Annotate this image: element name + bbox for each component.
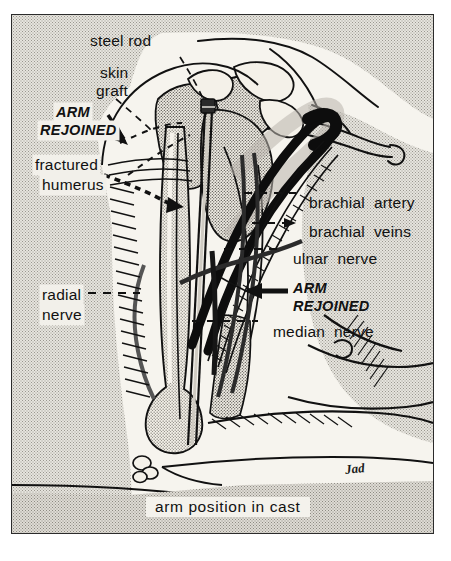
label-ulnar-nerve: ulnar nerve xyxy=(293,251,377,267)
clavicle-tip xyxy=(388,145,404,165)
label-radial-nerve-line1: radial xyxy=(42,287,81,303)
label-fractured-humerus-line2: humerus xyxy=(42,177,104,193)
label-arm-rejoined-mid-line1: ARM xyxy=(293,281,327,296)
artist-signature: Jad xyxy=(344,461,365,476)
label-arm-rejoined-mid-line2: REJOINED xyxy=(293,299,370,314)
label-arm-rejoined-top-line1: ARM xyxy=(56,105,90,120)
label-steel-rod: steel rod xyxy=(90,33,151,49)
label-arm-rejoined-top-line2: REJOINED xyxy=(40,123,117,138)
label-brachial-veins: brachial veins xyxy=(309,224,411,240)
illustration-figure: steel rod skin graft ARM REJOINED fractu… xyxy=(0,0,451,561)
label-median-nerve: median nerve xyxy=(273,324,374,340)
caption-arm-position-in-cast: arm position in cast xyxy=(146,497,310,517)
anatomical-artwork xyxy=(12,15,433,533)
illustration-plate: steel rod skin graft ARM REJOINED fractu… xyxy=(11,14,434,534)
label-skin-graft-line2: graft xyxy=(96,83,128,99)
crescent-mark xyxy=(334,340,352,358)
label-skin-graft-line1: skin xyxy=(100,65,128,81)
label-brachial-artery: brachial artery xyxy=(309,195,415,211)
label-radial-nerve-line2: nerve xyxy=(42,307,82,323)
label-fractured-humerus-line1: fractured xyxy=(35,157,98,173)
